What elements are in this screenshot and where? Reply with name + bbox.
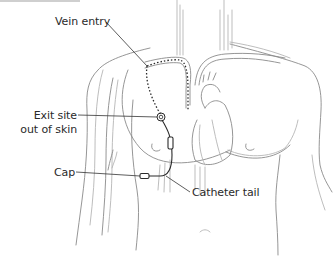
- leader-lines: [76, 22, 190, 192]
- catheter-in-vein: [147, 60, 188, 116]
- exit-site-leader: [78, 115, 157, 117]
- label-exit-site: Exit site: [13, 109, 77, 122]
- catheter-tail: [140, 120, 173, 179]
- body-outline: [76, 0, 332, 255]
- exit-site-marker: [157, 113, 165, 121]
- cap-leader: [76, 172, 140, 176]
- label-exit-site-sub: out of skin: [0, 123, 77, 136]
- label-catheter-tail: Catheter tail: [192, 186, 259, 199]
- label-cap: Cap: [54, 166, 75, 179]
- vein-entry-leader: [106, 22, 147, 66]
- label-vein-entry: Vein entry: [55, 15, 110, 28]
